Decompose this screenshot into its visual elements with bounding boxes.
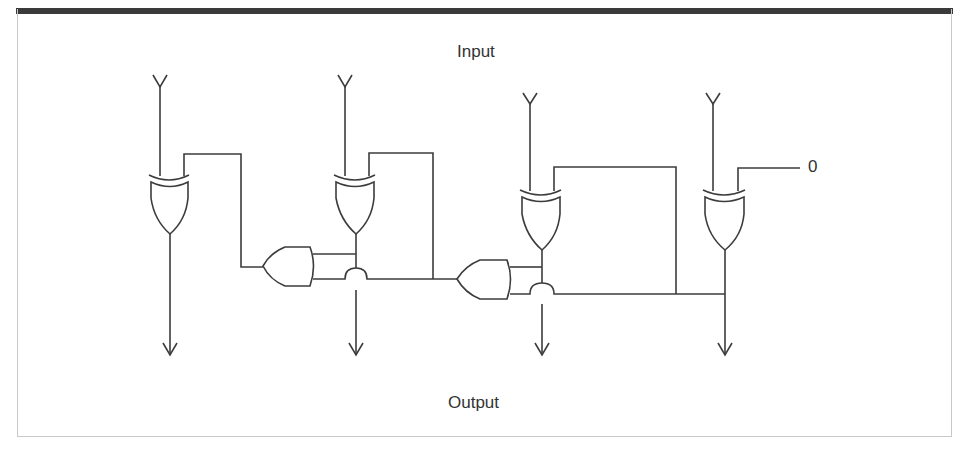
xor-gate-3 — [520, 93, 676, 355]
xor-gate-2 — [334, 75, 433, 355]
input-fork-icon — [153, 75, 167, 87]
input-fork-icon — [523, 93, 537, 104]
input-fork-icon — [338, 75, 352, 87]
xor-gate-1 — [149, 75, 263, 355]
or-gate-2 — [457, 260, 725, 299]
circuit-diagram — [0, 0, 960, 450]
input-fork-icon — [706, 93, 720, 104]
xor-gate-4 — [703, 93, 800, 355]
or-gate-1 — [263, 247, 457, 286]
